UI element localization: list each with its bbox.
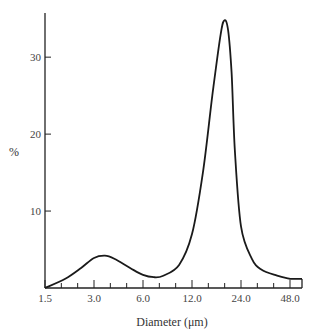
- x-tick-labels: 1.53.06.012.024.048.0: [38, 292, 300, 304]
- x-axis-label: Diameter (μm): [136, 315, 207, 329]
- axes: [45, 13, 302, 288]
- x-tick-label: 12.0: [182, 292, 202, 304]
- y-ticks: [45, 57, 51, 211]
- x-ticks: [45, 280, 290, 288]
- x-tick-label: 1.5: [38, 292, 52, 304]
- distribution-curve: [45, 20, 302, 288]
- y-tick-label: 20: [30, 128, 42, 140]
- x-tick-label: 24.0: [231, 292, 251, 304]
- y-tick-labels: 102030: [30, 51, 42, 217]
- y-tick-label: 10: [30, 205, 42, 217]
- chart: 102030 1.53.06.012.024.048.0 % Diameter …: [0, 0, 312, 331]
- x-tick-label: 48.0: [280, 292, 300, 304]
- x-tick-label: 6.0: [136, 292, 150, 304]
- x-tick-label: 3.0: [87, 292, 101, 304]
- y-axis-label: %: [9, 145, 19, 159]
- y-tick-label: 30: [30, 51, 42, 63]
